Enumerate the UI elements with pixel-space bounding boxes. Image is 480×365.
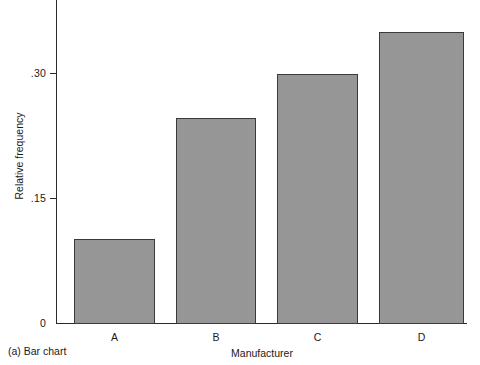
x-tick-label-a: A	[74, 331, 155, 343]
bar-b	[176, 118, 256, 324]
bar-a	[74, 239, 155, 324]
x-axis-title: Manufacturer	[57, 347, 467, 359]
x-tick-label-c: C	[277, 331, 358, 343]
bar-d	[379, 32, 464, 324]
y-tick-mark-015	[50, 198, 57, 199]
bar-chart-figure: .30 .15 0 A B C D Manufacturer Relative …	[0, 0, 480, 365]
bar-c	[277, 74, 358, 324]
figure-caption: (a) Bar chart	[8, 345, 66, 358]
y-tick-label-015: .15	[31, 193, 46, 203]
y-tick-mark-030	[50, 73, 57, 74]
y-tick-label-0: 0	[40, 318, 46, 328]
y-tick-label-030: .30	[31, 68, 46, 78]
y-axis-line	[56, 0, 57, 324]
x-tick-label-d: D	[379, 331, 464, 343]
x-tick-label-b: B	[176, 331, 256, 343]
y-axis-title: Relative frequency	[13, 96, 25, 216]
